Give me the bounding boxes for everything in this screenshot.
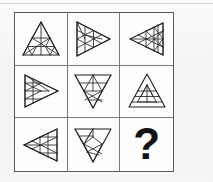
- matrix-cell-r1c3[interactable]: triangle-left-pattern-1: [120, 13, 173, 66]
- triangle-up-pattern-2-icon: [125, 69, 169, 113]
- triangle-up-pattern-1-icon: [19, 17, 63, 61]
- triangle-left-pattern-1-icon: [125, 17, 169, 61]
- triangle-left-pattern-2-icon: [19, 123, 63, 167]
- puzzle-page: triangle-up-pattern-1 triangle-right-p: [0, 0, 213, 182]
- matrix-cell-r3c2[interactable]: triangle-down-pattern-2: [68, 118, 121, 171]
- matrix-cell-r3c3-missing[interactable]: ?: [120, 118, 173, 171]
- matrix-cell-r2c3[interactable]: triangle-up-pattern-2: [120, 66, 173, 119]
- page-top-rule: [0, 3, 213, 4]
- matrix-cell-r3c1[interactable]: triangle-left-pattern-2: [15, 118, 68, 171]
- matrix-cell-r1c1[interactable]: triangle-up-pattern-1: [15, 13, 68, 66]
- matrix-cell-r2c1[interactable]: triangle-right-pattern-2: [15, 66, 68, 119]
- triangle-right-pattern-1-icon: [71, 17, 115, 61]
- missing-element-question-mark: ?: [133, 122, 160, 166]
- triangle-down-pattern-2-icon: [71, 123, 115, 167]
- matrix-grid: triangle-up-pattern-1 triangle-right-p: [14, 12, 174, 172]
- triangle-down-pattern-1-icon: [71, 69, 115, 113]
- triangle-right-pattern-2-icon: [19, 69, 63, 113]
- matrix-cell-r2c2[interactable]: triangle-down-pattern-1: [68, 66, 121, 119]
- matrix-cell-r1c2[interactable]: triangle-right-pattern-1: [68, 13, 121, 66]
